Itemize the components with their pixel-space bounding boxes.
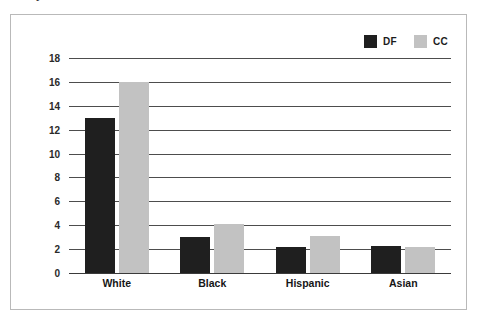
y-axis-tick-label: 2 [54,244,60,255]
bar-cc-black [214,224,244,273]
bar-df-black [180,237,210,273]
bar-df-hispanic [276,247,306,273]
y-axis-tick-label: 18 [49,53,60,64]
y-axis-tick-label: 16 [49,76,60,87]
x-axis-labels: WhiteBlackHispanicAsian [69,277,451,297]
legend-entry: CC [414,35,448,48]
y-axis-tick-label: 10 [49,148,60,159]
x-axis-tick-label: Black [198,277,226,289]
legend-entry: DF [364,35,397,48]
bars-layer [69,58,451,273]
x-axis-tick-label: Hispanic [286,277,330,289]
bar-cc-asian [405,247,435,273]
bar-cc-hispanic [310,236,340,273]
legend-swatch-cc [414,35,427,48]
bar-df-asian [371,246,401,273]
y-axis-tick-label: 6 [54,196,60,207]
y-axis-tick-label: 0 [54,268,60,279]
y-axis-tick-label: 12 [49,124,60,135]
chart-legend: DFCC [364,35,448,48]
x-axis-tick-label: Asian [389,277,418,289]
y-axis-tick-label: 4 [54,220,60,231]
y-axis-tick-label: 8 [54,172,60,183]
plot-area: 024681012141618 [69,58,451,273]
y-axis-tick-label: 14 [49,100,60,111]
bar-cc-white [119,82,149,273]
bar-df-white [85,118,115,273]
legend-label: DF [383,36,397,47]
legend-swatch-df [364,35,377,48]
chart-frame: DFCC 024681012141618 WhiteBlackHispanicA… [10,14,467,310]
clipped-title-fragment: y [36,0,42,1]
legend-label: CC [433,36,448,47]
axis-baseline: 0 [69,273,451,274]
x-axis-tick-label: White [102,277,131,289]
